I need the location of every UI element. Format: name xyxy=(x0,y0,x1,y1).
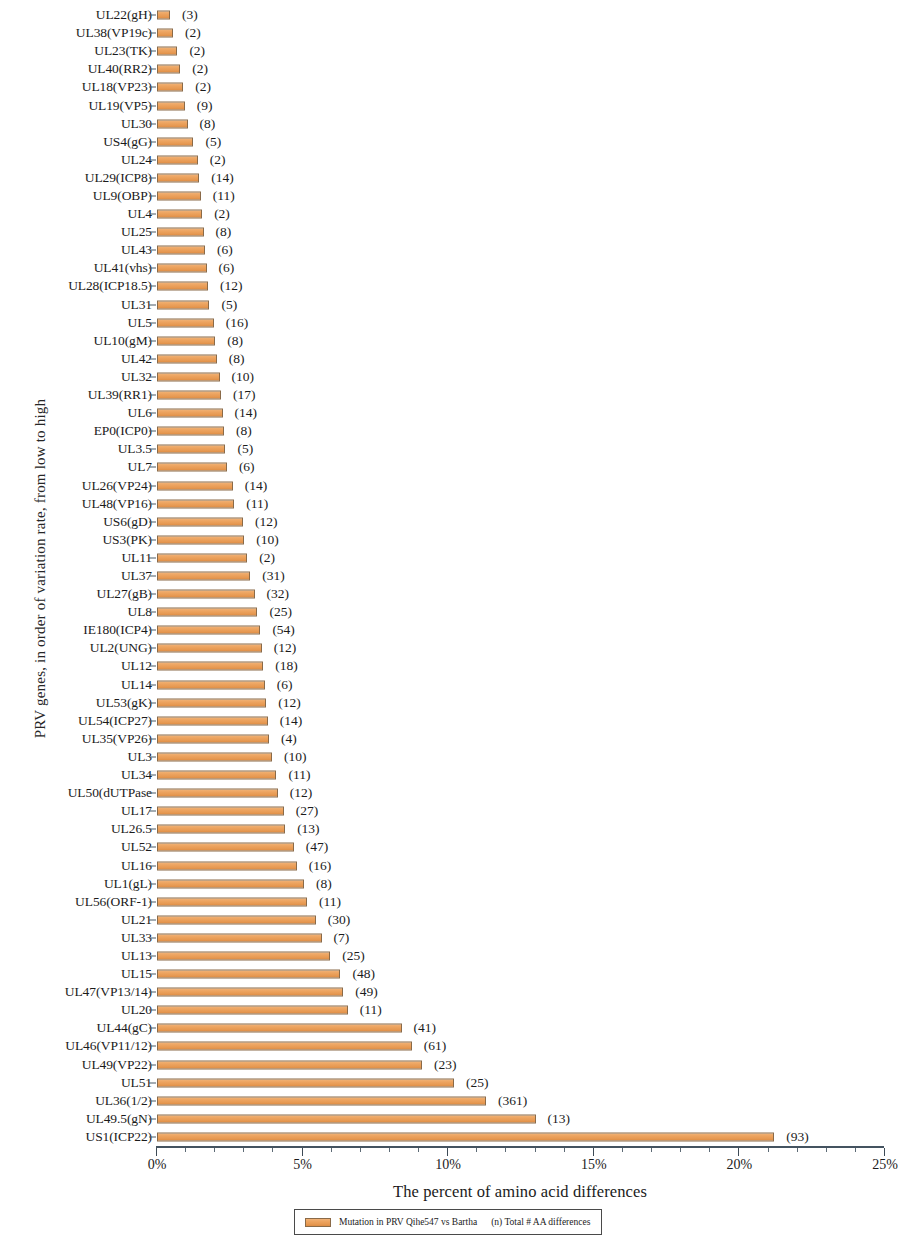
y-axis-tick-mark xyxy=(149,376,156,377)
bar xyxy=(157,499,234,508)
y-axis-tick-label: UL9(OBP) xyxy=(93,188,156,204)
bar-row: UL29(ICP8)(14) xyxy=(0,169,893,187)
y-axis-tick-mark xyxy=(149,431,156,432)
y-axis-tick-mark xyxy=(149,177,156,178)
bar xyxy=(157,807,284,816)
bar xyxy=(157,282,208,291)
bar-row: UL7(6) xyxy=(0,458,893,476)
x-axis-minor-tick xyxy=(622,1148,623,1152)
bar xyxy=(157,210,202,219)
bar-row: UL2(UNG)(12) xyxy=(0,639,893,657)
y-axis-tick-label: UL26(VP24) xyxy=(82,478,156,494)
bar-row: UL36(1/2)(361) xyxy=(0,1092,893,1110)
x-axis-major-tick xyxy=(593,1148,594,1156)
bar xyxy=(157,191,201,200)
bar-value-label: (54) xyxy=(266,622,295,638)
bar-value-label: (16) xyxy=(303,858,332,874)
bar-row: UL27(gB)(32) xyxy=(0,585,893,603)
x-axis-minor-tick xyxy=(389,1148,390,1152)
plot-area: UL22(gH)(3)UL38(VP19c)(2)UL23(TK)(2)UL40… xyxy=(0,6,893,1146)
bar-value-label: (14) xyxy=(229,405,258,421)
bar-row: EP0(ICP0)(8) xyxy=(0,422,893,440)
y-axis-tick-mark xyxy=(149,756,156,757)
x-axis-minor-tick xyxy=(709,1148,710,1152)
y-axis-tick-mark xyxy=(149,304,156,305)
bar-row: UL16(16) xyxy=(0,856,893,874)
bar-value-label: (32) xyxy=(261,586,290,602)
bar-row: UL34(11) xyxy=(0,766,893,784)
y-axis-tick-mark xyxy=(149,141,156,142)
y-axis-tick-mark xyxy=(149,521,156,522)
bar-value-label: (49) xyxy=(349,984,378,1000)
bar xyxy=(157,843,294,852)
bar-row: UL49.5(gN)(13) xyxy=(0,1110,893,1128)
bar xyxy=(157,897,307,906)
bar xyxy=(157,1042,412,1051)
bar-value-label: (6) xyxy=(211,242,233,258)
y-axis-tick-mark xyxy=(149,33,156,34)
bar-value-label: (5) xyxy=(199,134,221,150)
bar-row: UL11(2) xyxy=(0,549,893,567)
bar xyxy=(157,879,304,888)
bar-row: IE180(ICP4)(54) xyxy=(0,621,893,639)
x-axis-minor-tick xyxy=(418,1148,419,1152)
bar-value-label: (7) xyxy=(328,930,350,946)
bar xyxy=(157,644,262,653)
bar-row: UL39(RR1)(17) xyxy=(0,386,893,404)
bar-value-label: (2) xyxy=(179,25,201,41)
y-axis-tick-mark xyxy=(149,557,156,558)
bar-row: UL37(31) xyxy=(0,567,893,585)
bar-row: UL19(VP5)(9) xyxy=(0,96,893,114)
bar-row: UL46(VP11/12)(61) xyxy=(0,1037,893,1055)
bar xyxy=(157,716,268,725)
bar xyxy=(157,752,272,761)
bar-value-label: (2) xyxy=(189,79,211,95)
y-axis-tick-label: UL2(UNG) xyxy=(90,640,156,656)
bar xyxy=(157,970,340,979)
x-axis-minor-tick xyxy=(768,1148,769,1152)
bar-row: UL23(TK)(2) xyxy=(0,42,893,60)
y-axis-tick-mark xyxy=(149,358,156,359)
x-axis-title: The percent of amino acid differences xyxy=(156,1182,884,1202)
y-axis-tick-label: UL28(ICP18.5) xyxy=(68,278,156,294)
y-axis-tick-mark xyxy=(149,829,156,830)
y-axis-tick-mark xyxy=(149,105,156,106)
y-axis-tick-mark xyxy=(149,594,156,595)
y-axis-tick-mark xyxy=(149,648,156,649)
bar-value-label: (12) xyxy=(214,278,243,294)
y-axis-tick-mark xyxy=(149,214,156,215)
x-axis-minor-tick xyxy=(651,1148,652,1152)
bar-value-label: (16) xyxy=(220,315,249,331)
bar xyxy=(157,933,322,942)
x-axis-minor-tick xyxy=(505,1148,506,1152)
x-axis-major-tick xyxy=(738,1148,739,1156)
x-axis-minor-tick xyxy=(797,1148,798,1152)
bar-row: UL32(10) xyxy=(0,368,893,386)
bar xyxy=(157,83,183,92)
y-axis-tick-mark xyxy=(149,123,156,124)
bar xyxy=(157,517,243,526)
bar xyxy=(157,825,285,834)
bar-value-label: (30) xyxy=(322,912,351,928)
x-axis-line xyxy=(156,1146,884,1148)
bar xyxy=(157,1024,402,1033)
bar xyxy=(157,11,170,20)
y-axis-tick-mark xyxy=(149,195,156,196)
bar xyxy=(157,119,188,128)
bar-value-label: (12) xyxy=(249,514,278,530)
bar-value-label: (14) xyxy=(205,170,234,186)
bar-row: UL52(47) xyxy=(0,838,893,856)
bar-value-label: (93) xyxy=(780,1129,809,1145)
bar xyxy=(157,1096,486,1105)
bar-row: UL28(ICP18.5)(12) xyxy=(0,277,893,295)
y-axis-tick-mark xyxy=(149,901,156,902)
y-axis-tick-mark xyxy=(149,268,156,269)
bar-row: UL44(gC)(41) xyxy=(0,1019,893,1037)
x-axis-minor-tick xyxy=(680,1148,681,1152)
y-axis-tick-mark xyxy=(149,1082,156,1083)
bar xyxy=(157,29,173,38)
bar xyxy=(157,626,260,635)
x-axis-minor-tick xyxy=(360,1148,361,1152)
y-axis-tick-label: UL46(VP11/12) xyxy=(65,1038,156,1054)
